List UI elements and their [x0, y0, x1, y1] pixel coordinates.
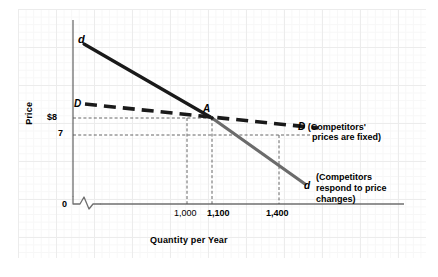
curve-d-annotation-line2: respond to price	[316, 183, 387, 194]
axis-break-zigzag	[73, 197, 100, 209]
curve-d-annotation-line1: (Competitors	[316, 172, 372, 183]
y-axis-title: Price	[24, 78, 35, 148]
x-axis-title: Quantity per Year	[150, 235, 228, 246]
y-tick-label-8: $8	[47, 112, 57, 123]
point-A-label: A	[203, 103, 210, 115]
y-tick-label-7: 7	[58, 128, 63, 139]
chart-figure: Price Quantity per Year $8 7 0 1,000 1,1…	[0, 0, 438, 277]
curve-D-annotation-line2: prices are fixed)	[312, 132, 381, 143]
curve-d-upper-segment	[84, 44, 212, 118]
curve-d-right-glyph: d	[304, 180, 310, 192]
curve-D-dashed	[85, 104, 318, 128]
curve-D-label-left: D	[74, 98, 81, 110]
origin-tick-label: 0	[62, 199, 67, 210]
curve-d-lower-segment	[212, 118, 305, 184]
point-A-marker	[210, 116, 214, 120]
curve-d-label-top: d	[78, 33, 85, 46]
x-tick-label-1100: 1,100	[207, 208, 230, 219]
curve-d-annotation-line3: changes)	[316, 194, 356, 205]
x-tick-label-1400: 1,400	[266, 208, 289, 219]
x-tick-label-1000: 1,000	[174, 208, 197, 219]
curve-D-annotation-line1: (Competitors'	[308, 122, 366, 132]
